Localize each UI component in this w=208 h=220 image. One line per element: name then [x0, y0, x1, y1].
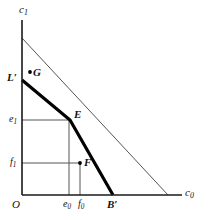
endpoint-label-L-prime: L′	[7, 72, 17, 83]
point-label-F: F	[84, 157, 91, 168]
intertemporal-budget-chart: c1 c0 O e1 f1 e0 f0 G E F L′ B′	[0, 0, 208, 220]
point-label-E: E	[74, 109, 81, 120]
y-axis-label: c1	[19, 4, 28, 17]
endpoint-label-B-prime: B′	[107, 199, 117, 210]
guide-lines	[22, 120, 80, 195]
thin-budget-line	[22, 38, 168, 195]
tick-label-f0: f0	[78, 199, 84, 211]
point-G-dot	[28, 70, 32, 74]
point-F-dot	[78, 161, 82, 165]
tick-label-e1: e1	[9, 114, 17, 126]
tick-label-f1: f1	[10, 157, 16, 169]
thick-kinked-budget-line	[22, 80, 113, 195]
point-label-G: G	[33, 67, 41, 78]
x-axis-label: c0	[185, 187, 194, 200]
chart-canvas	[0, 0, 208, 220]
tick-label-e0: e0	[63, 199, 71, 211]
origin-label: O	[12, 199, 20, 210]
